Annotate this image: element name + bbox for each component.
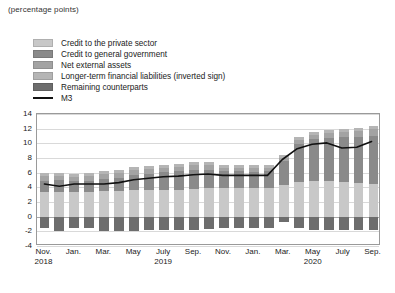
x-tick-month: Nov. xyxy=(36,247,52,256)
legend-label: Credit to the private sector xyxy=(61,39,157,48)
y-tick--2: -2 xyxy=(25,226,32,235)
x-tick-july: July2019 xyxy=(154,247,172,266)
y-tick-14: 14 xyxy=(23,109,32,118)
x-tick-july: July xyxy=(335,247,349,256)
x-tick-year: 2019 xyxy=(154,257,172,266)
legend-swatch-net-external-assets xyxy=(33,61,53,69)
x-tick-month: Sep. xyxy=(185,247,201,256)
chart-legend: Credit to the private sectorCredit to ge… xyxy=(33,38,225,103)
plot-area xyxy=(36,113,380,245)
x-tick-year: 2018 xyxy=(35,257,53,266)
y-tick-4: 4 xyxy=(28,182,32,191)
y-tick-6: 6 xyxy=(28,167,32,176)
x-tick-month: Nov. xyxy=(215,247,231,256)
legend-swatch-remaining-counterparts xyxy=(33,83,53,91)
y-tick-8: 8 xyxy=(28,153,32,162)
x-tick-sep: Sep. xyxy=(364,247,380,256)
y-tick-0: 0 xyxy=(28,211,32,220)
legend-swatch-credit-private-sector xyxy=(33,39,53,47)
legend-item-longer-term-financial-liabilities: Longer-term financial liabilities (inver… xyxy=(33,71,225,81)
x-tick-month: July xyxy=(156,247,170,256)
x-tick-nov: Nov.2018 xyxy=(35,247,53,266)
x-axis-tick-labels: Nov.2018Jan.Mar.MayJuly2019Sep.Nov.Jan.M… xyxy=(36,247,380,287)
legend-label: Longer-term financial liabilities (inver… xyxy=(61,72,225,81)
x-tick-mar: Mar. xyxy=(275,247,291,256)
m3-line-series xyxy=(37,114,379,244)
legend-item-net-external-assets: Net external assets xyxy=(33,60,225,70)
legend-item-credit-private-sector: Credit to the private sector xyxy=(33,38,225,48)
legend-swatch-credit-general-government xyxy=(33,50,53,58)
x-tick-month: May xyxy=(305,247,320,256)
legend-item-remaining-counterparts: Remaining counterparts xyxy=(33,82,225,92)
x-tick-jan: Jan. xyxy=(66,247,81,256)
x-tick-month: Mar. xyxy=(96,247,112,256)
x-tick-month: May xyxy=(126,247,141,256)
y-tick-2: 2 xyxy=(28,197,32,206)
y-tick--4: -4 xyxy=(25,241,32,250)
x-tick-month: Sep. xyxy=(364,247,380,256)
x-tick-month: Jan. xyxy=(66,247,81,256)
x-tick-may: May2020 xyxy=(304,247,322,266)
x-tick-month: July xyxy=(335,247,349,256)
y-tick-12: 12 xyxy=(23,123,32,132)
legend-line-marker xyxy=(33,94,53,102)
x-tick-month: Jan. xyxy=(245,247,260,256)
m3-polyline xyxy=(44,141,371,186)
legend-label: Credit to general government xyxy=(61,50,167,59)
x-tick-nov: Nov. xyxy=(215,247,231,256)
x-tick-may: May xyxy=(126,247,141,256)
legend-label: Net external assets xyxy=(61,61,131,70)
legend-label: Remaining counterparts xyxy=(61,83,148,92)
y-tick-10: 10 xyxy=(23,138,32,147)
x-tick-year: 2020 xyxy=(304,257,322,266)
y-axis-tick-labels: 14121086420-2-4 xyxy=(0,113,36,245)
x-tick-mar: Mar. xyxy=(96,247,112,256)
x-tick-month: Mar. xyxy=(275,247,291,256)
x-tick-sep: Sep. xyxy=(185,247,201,256)
unit-label: (percentage points) xyxy=(8,5,79,14)
legend-label: M3 xyxy=(61,94,72,103)
x-tick-jan: Jan. xyxy=(245,247,260,256)
legend-item-m3-line: M3 xyxy=(33,93,225,103)
legend-item-credit-general-government: Credit to general government xyxy=(33,49,225,59)
legend-swatch-longer-term-financial-liabilities xyxy=(33,72,53,80)
